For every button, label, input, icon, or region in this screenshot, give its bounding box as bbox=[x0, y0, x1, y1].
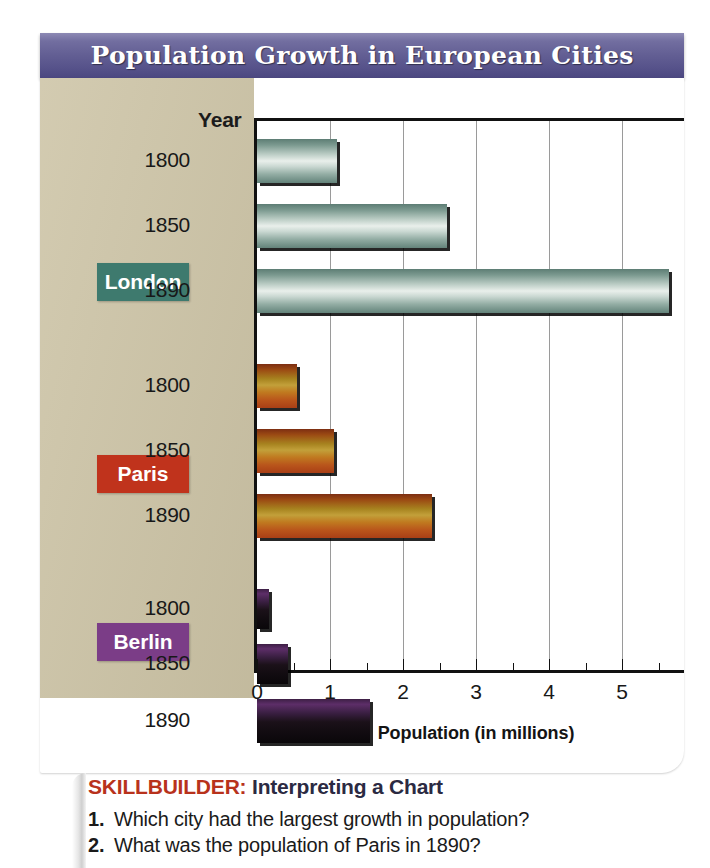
x-tick-major bbox=[622, 659, 623, 670]
x-tick-label: 5 bbox=[602, 680, 642, 704]
x-axis-title: Population (in millions) bbox=[254, 723, 684, 744]
skillbuilder-question: 1.Which city had the largest growth in p… bbox=[88, 808, 684, 831]
skillbuilder-title: Interpreting a Chart bbox=[252, 775, 443, 798]
bar-paris-1800 bbox=[257, 364, 297, 408]
year-label: 1800 bbox=[110, 148, 190, 172]
year-label: 1850 bbox=[110, 651, 190, 675]
x-tick-major bbox=[403, 659, 404, 670]
figure-title-banner: Population Growth in European Cities bbox=[40, 33, 684, 78]
x-tick-label: 2 bbox=[383, 680, 423, 704]
year-label: 1890 bbox=[110, 708, 190, 732]
bar-paris-1850 bbox=[257, 429, 334, 473]
plot-inner bbox=[257, 121, 684, 670]
chart-container: Year London Paris Berlin 180018501890180… bbox=[40, 78, 684, 773]
gridline bbox=[549, 121, 550, 670]
textbook-figure-card: Population Growth in European Cities Yea… bbox=[36, 0, 688, 868]
year-label: 1890 bbox=[110, 278, 190, 302]
skillbuilder-questions: 1.Which city had the largest growth in p… bbox=[44, 808, 684, 857]
question-text: What was the population of Paris in 1890… bbox=[114, 834, 480, 857]
skillbuilder-label: SKILLBUILDER: bbox=[88, 775, 246, 798]
x-tick-major bbox=[549, 659, 550, 670]
bar-berlin-1850 bbox=[257, 644, 288, 684]
bar-berlin-1800 bbox=[257, 589, 269, 629]
skillbuilder-section: SKILLBUILDER: Interpreting a Chart 1.Whi… bbox=[44, 775, 684, 860]
bar-london-1850 bbox=[257, 204, 447, 248]
bar-paris-1890 bbox=[257, 494, 432, 538]
x-tick-major bbox=[330, 659, 331, 670]
x-tick-label: 1 bbox=[310, 680, 350, 704]
x-tick-minor bbox=[367, 663, 368, 670]
x-tick-label: 6 bbox=[675, 680, 684, 704]
year-label: 1800 bbox=[110, 373, 190, 397]
year-label: 1800 bbox=[110, 596, 190, 620]
year-label: 1850 bbox=[110, 213, 190, 237]
x-tick-minor bbox=[294, 663, 295, 670]
skillbuilder-question: 2.What was the population of Paris in 18… bbox=[88, 834, 684, 857]
year-column-header: Year bbox=[198, 108, 242, 132]
x-tick-major bbox=[476, 659, 477, 670]
x-tick-label: 4 bbox=[529, 680, 569, 704]
x-tick-label: 3 bbox=[456, 680, 496, 704]
gridline bbox=[622, 121, 623, 670]
x-tick-label: 0 bbox=[237, 680, 277, 704]
year-label: 1850 bbox=[110, 438, 190, 462]
gridline bbox=[476, 121, 477, 670]
x-tick-minor bbox=[440, 663, 441, 670]
question-number: 1. bbox=[88, 808, 114, 831]
figure-title: Population Growth in European Cities bbox=[90, 41, 633, 70]
bar-london-1890 bbox=[257, 269, 669, 313]
x-tick-minor bbox=[659, 663, 660, 670]
question-number: 2. bbox=[88, 834, 114, 857]
chart-plot-area bbox=[254, 118, 684, 673]
skillbuilder-heading: SKILLBUILDER: Interpreting a Chart bbox=[88, 775, 684, 799]
x-tick-minor bbox=[513, 663, 514, 670]
year-label: 1890 bbox=[110, 503, 190, 527]
question-text: Which city had the largest growth in pop… bbox=[114, 808, 529, 831]
x-tick-major bbox=[257, 659, 258, 670]
x-tick-minor bbox=[586, 663, 587, 670]
bar-london-1800 bbox=[257, 139, 337, 183]
